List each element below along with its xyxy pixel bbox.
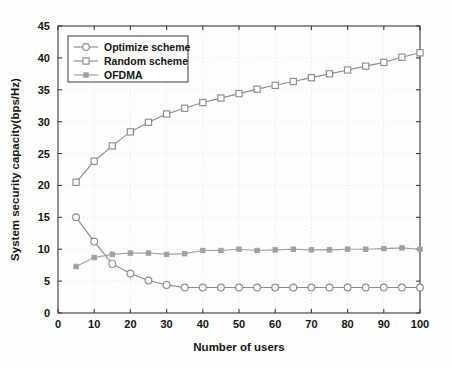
data-point-marker bbox=[345, 67, 351, 73]
data-point-marker bbox=[399, 284, 406, 291]
data-point-marker bbox=[308, 75, 314, 81]
series-3 bbox=[74, 246, 422, 269]
data-point-marker bbox=[417, 284, 424, 291]
data-point-marker bbox=[345, 247, 349, 251]
data-point-marker bbox=[290, 284, 297, 291]
data-point-marker bbox=[272, 284, 279, 291]
data-point-marker bbox=[218, 95, 224, 101]
data-point-marker bbox=[164, 111, 170, 117]
data-point-marker bbox=[83, 44, 90, 51]
x-tick-label: 100 bbox=[411, 318, 429, 330]
data-point-marker bbox=[146, 251, 150, 255]
y-tick-label: 35 bbox=[38, 84, 50, 96]
data-point-marker bbox=[308, 284, 315, 291]
y-tick-labels: 051015202530354045 bbox=[38, 20, 50, 319]
y-tick-label: 40 bbox=[38, 52, 50, 64]
data-point-marker bbox=[219, 248, 223, 252]
x-tick-label: 20 bbox=[124, 318, 136, 330]
x-tick-label: 50 bbox=[233, 318, 245, 330]
x-tick-label: 70 bbox=[305, 318, 317, 330]
data-point-marker bbox=[291, 247, 295, 251]
data-point-marker bbox=[83, 58, 89, 64]
data-point-marker bbox=[73, 214, 80, 221]
data-point-marker bbox=[127, 270, 134, 277]
chart-canvas: 0102030405060708090100 05101520253035404… bbox=[0, 0, 452, 368]
data-point-marker bbox=[73, 179, 79, 185]
data-point-marker bbox=[400, 246, 404, 250]
legend-label-2: Random scheme bbox=[104, 55, 188, 67]
data-point-marker bbox=[254, 284, 261, 291]
y-tick-label: 20 bbox=[38, 179, 50, 191]
x-tick-label: 30 bbox=[160, 318, 172, 330]
x-tick-label: 0 bbox=[55, 318, 61, 330]
y-tick-label: 15 bbox=[38, 211, 50, 223]
x-tick-label: 10 bbox=[88, 318, 100, 330]
y-tick-label: 45 bbox=[38, 20, 50, 32]
data-point-marker bbox=[344, 284, 351, 291]
data-point-marker bbox=[201, 248, 205, 252]
data-point-marker bbox=[91, 238, 98, 245]
data-point-marker bbox=[327, 248, 331, 252]
data-point-marker bbox=[272, 82, 278, 88]
data-point-marker bbox=[199, 284, 206, 291]
data-point-marker bbox=[273, 248, 277, 252]
series-1 bbox=[73, 214, 424, 291]
data-point-marker bbox=[145, 277, 152, 284]
data-point-marker bbox=[255, 248, 259, 252]
data-point-marker bbox=[326, 71, 332, 77]
data-point-marker bbox=[254, 86, 260, 92]
data-series-group bbox=[73, 50, 424, 291]
data-point-marker bbox=[364, 247, 368, 251]
x-tick-labels: 0102030405060708090100 bbox=[55, 318, 429, 330]
data-point-marker bbox=[110, 252, 114, 256]
series-line bbox=[76, 217, 420, 287]
y-tick-label: 5 bbox=[44, 275, 50, 287]
x-axis-title: Number of users bbox=[193, 341, 284, 353]
legend-label-3: OFDMA bbox=[104, 69, 143, 81]
data-point-marker bbox=[92, 255, 96, 259]
data-point-marker bbox=[381, 59, 387, 65]
chart-figure: 0102030405060708090100 05101520253035404… bbox=[0, 0, 452, 368]
data-point-marker bbox=[290, 78, 296, 84]
data-point-marker bbox=[164, 252, 168, 256]
data-point-marker bbox=[163, 282, 170, 289]
data-point-marker bbox=[399, 54, 405, 60]
y-tick-label: 25 bbox=[38, 148, 50, 160]
data-point-marker bbox=[362, 284, 369, 291]
y-tick-label: 0 bbox=[44, 307, 50, 319]
data-point-marker bbox=[74, 264, 78, 268]
data-point-marker bbox=[363, 63, 369, 69]
data-point-marker bbox=[417, 50, 423, 56]
y-axis-title: System security capacity(bps/Hz) bbox=[9, 78, 21, 261]
data-point-marker bbox=[127, 129, 133, 135]
data-point-marker bbox=[236, 91, 242, 97]
data-point-marker bbox=[183, 251, 187, 255]
data-point-marker bbox=[200, 99, 206, 105]
data-point-marker bbox=[326, 284, 333, 291]
data-point-marker bbox=[236, 284, 243, 291]
data-point-marker bbox=[109, 260, 116, 267]
data-point-marker bbox=[128, 251, 132, 255]
data-point-marker bbox=[84, 73, 88, 77]
x-tick-label: 60 bbox=[269, 318, 281, 330]
data-point-marker bbox=[418, 247, 422, 251]
data-point-marker bbox=[181, 284, 188, 291]
data-point-marker bbox=[218, 284, 225, 291]
x-tick-label: 80 bbox=[341, 318, 353, 330]
data-point-marker bbox=[109, 143, 115, 149]
y-tick-label: 30 bbox=[38, 116, 50, 128]
x-tick-label: 90 bbox=[378, 318, 390, 330]
y-tick-label: 10 bbox=[38, 243, 50, 255]
data-point-marker bbox=[91, 158, 97, 164]
data-point-marker bbox=[145, 119, 151, 125]
data-point-marker bbox=[182, 105, 188, 111]
data-point-marker bbox=[309, 248, 313, 252]
data-point-marker bbox=[380, 284, 387, 291]
chart-legend: Optimize schemeRandom schemeOFDMA bbox=[68, 36, 191, 82]
data-point-marker bbox=[382, 246, 386, 250]
data-point-marker bbox=[237, 247, 241, 251]
x-tick-label: 40 bbox=[197, 318, 209, 330]
legend-label-1: Optimize scheme bbox=[104, 41, 191, 53]
series-line bbox=[76, 248, 420, 266]
